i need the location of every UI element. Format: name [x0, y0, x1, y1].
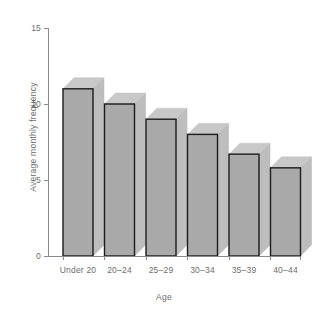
y-tick-labels: 051015 — [31, 23, 41, 261]
bar-5 — [271, 157, 312, 256]
bar-2 — [146, 108, 187, 256]
x-tick-label: 30–34 — [190, 265, 215, 275]
bar-side-face — [93, 78, 104, 256]
bar-side-face — [218, 123, 229, 256]
x-tick-label: 40–44 — [273, 265, 298, 275]
y-tick-label: 5 — [36, 175, 41, 185]
bar-side-face — [301, 157, 312, 256]
x-tick-labels: Under 2020–2425–2930–3435–3940–44 — [60, 265, 298, 275]
bar-3 — [188, 123, 229, 256]
bars-group — [63, 78, 312, 256]
x-tick-label: Under 20 — [60, 265, 97, 275]
bar-0 — [63, 78, 104, 256]
y-tick-label: 0 — [36, 251, 41, 261]
x-tick-label: 20–24 — [107, 265, 132, 275]
bar-1 — [105, 93, 146, 256]
bar-4 — [229, 143, 270, 256]
plot-area: 051015 Under 2020–2425–2930–3435–3940–44 — [0, 0, 328, 319]
y-tick-label: 15 — [31, 23, 41, 33]
bar-front-face — [271, 168, 301, 256]
bar-side-face — [176, 108, 187, 256]
bar-side-face — [135, 93, 146, 256]
x-tick-label: 35–39 — [232, 265, 257, 275]
bar-chart: Average monthly frequency Age 051015 Und… — [0, 0, 328, 319]
x-tick-label: 25–29 — [149, 265, 174, 275]
bar-side-face — [259, 143, 270, 256]
bar-front-face — [146, 119, 176, 256]
bar-front-face — [63, 89, 93, 256]
bar-front-face — [188, 134, 218, 256]
bar-front-face — [105, 104, 135, 256]
y-tick-label: 10 — [31, 99, 41, 109]
bar-front-face — [229, 154, 259, 256]
